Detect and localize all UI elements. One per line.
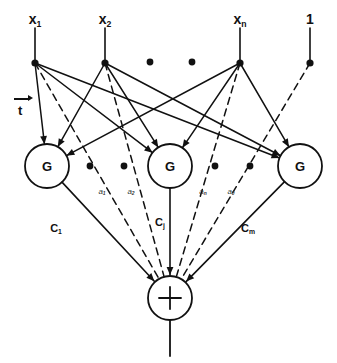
input-ellipsis-dot-1 (147, 59, 154, 66)
hidden-unit-label-g1: G (42, 160, 52, 173)
arrow-xn-to-gj (182, 139, 189, 148)
hidden-unit-label-gm: G (295, 160, 305, 173)
a-weight-label-4: a0 (227, 188, 234, 196)
hidden-ellipsis-dot-3 (212, 163, 219, 170)
input-label-xn: xn (233, 12, 246, 26)
arrow-x1-to-gj (144, 145, 152, 153)
edge-x2-to-gm (105, 63, 281, 156)
edge-x1-to-g1 (35, 63, 44, 144)
hidden-ellipsis-dot-2 (121, 163, 128, 170)
hidden-unit-label-gj: G (165, 160, 175, 173)
t-vector-arrowhead (28, 95, 33, 101)
hidden-ellipsis-dot-4 (247, 163, 254, 170)
arrow-x1-to-g1 (40, 136, 47, 144)
edge-x2-to-g1 (58, 63, 105, 147)
network-wires (0, 0, 337, 363)
t-vector-bar (14, 98, 29, 100)
edge-x1-to-gj (35, 63, 153, 153)
c-weight-label-2: Cj (155, 217, 165, 228)
edge-x2-to-gj (105, 63, 158, 147)
a-weight-label-1: a1 (98, 188, 105, 196)
arrow-x2-to-gj (151, 139, 158, 148)
c-weight-label-3: Cm (241, 223, 255, 234)
a-weight-label-2: a2 (127, 188, 134, 196)
input-label-x1: x1 (29, 12, 42, 26)
rbf-network-diagram: t GGGx1x2xn1a1a2ana0C1CjCm (0, 0, 337, 363)
input-ellipsis-dot-2 (189, 59, 196, 66)
edge-g1-to-sum (62, 182, 154, 281)
c-weight-label-1: C1 (50, 223, 62, 234)
input-label-x2: x2 (99, 12, 112, 26)
edge-xn-to-gj (182, 63, 240, 148)
hidden-ellipsis-dot-1 (87, 163, 94, 170)
t-vector-label: t (18, 104, 22, 117)
a-weight-label-3: an (199, 188, 206, 196)
edge-xn-to-gm (240, 63, 289, 147)
arrow-gj-to-sum (167, 267, 174, 275)
input-label-bias: 1 (306, 12, 314, 26)
